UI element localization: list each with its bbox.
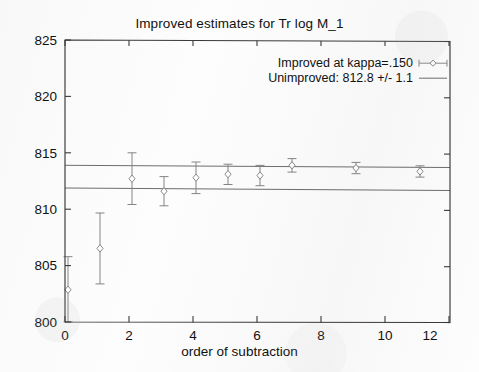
xtick-label-6: 6 — [253, 328, 261, 343]
data-point-2 — [128, 153, 137, 205]
xtick-label-0: 0 — [61, 328, 69, 343]
chart-figure: Improved estimates for Tr log M_1 825 82… — [0, 0, 479, 372]
band-lower-line — [65, 188, 450, 191]
ytick-label-820: 820 — [34, 89, 57, 104]
ytick-label-810: 810 — [34, 202, 57, 217]
data-point-6 — [256, 165, 265, 185]
ytick-label-815: 815 — [34, 146, 57, 161]
chart-legend: Improved at kappa=.150 Unimproved: 812.8… — [268, 56, 447, 85]
legend-label-unimproved: Unimproved: 812.8 +/- 1.1 — [268, 71, 413, 85]
xtick-label-4: 4 — [189, 328, 197, 343]
legend-marker-improved — [419, 60, 447, 67]
improved-series — [64, 153, 425, 322]
unimproved-band — [65, 165, 450, 190]
xtick-label-12: 12 — [422, 328, 437, 343]
ytick-label-800: 800 — [34, 315, 57, 330]
data-point-9 — [352, 162, 361, 173]
data-point-7 — [288, 159, 297, 173]
xtick-label-8: 8 — [317, 328, 325, 343]
xtick-label-2: 2 — [125, 328, 133, 343]
plot-canvas: 825 820 815 810 805 800 0 2 4 6 8 10 12 — [0, 0, 479, 372]
data-point-1 — [96, 213, 105, 284]
x-axis-label: order of subtraction — [0, 344, 479, 359]
data-point-3 — [160, 177, 169, 206]
legend-label-improved: Improved at kappa=.150 — [278, 56, 413, 70]
xtick-label-10: 10 — [377, 328, 392, 343]
ytick-label-805: 805 — [34, 258, 57, 273]
ytick-label-825: 825 — [34, 33, 57, 48]
data-point-5 — [224, 164, 233, 184]
